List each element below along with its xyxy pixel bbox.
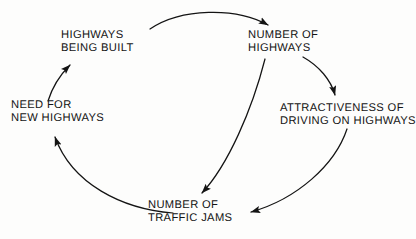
causal-loop-diagram: HIGHWAYS BEING BUILT NUMBER OF HIGHWAYS … <box>0 0 416 239</box>
node-attractiveness-of-driving-on-highways: ATTRACTIVENESS OF DRIVING ON HIGHWAYS <box>280 102 416 127</box>
node-highways-being-built: HIGHWAYS BEING BUILT <box>61 29 134 54</box>
arrow-highways-being-built-to-number-of-highways <box>150 12 268 29</box>
node-number-of-highways: NUMBER OF HIGHWAYS <box>248 29 318 54</box>
node-number-of-highways-line2: HIGHWAYS <box>248 42 318 55</box>
node-number-of-highways-line1: NUMBER OF <box>248 29 318 42</box>
node-attractiveness-line2: DRIVING ON HIGHWAYS <box>280 115 416 128</box>
arrow-attractiveness-to-traffic-jams <box>251 129 347 212</box>
node-traffic-jams-line2: TRAFFIC JAMS <box>148 212 232 225</box>
arrow-need-for-new-highways-to-highways-being-built <box>48 65 70 101</box>
node-traffic-jams-line1: NUMBER OF <box>148 199 232 212</box>
node-highways-being-built-line1: HIGHWAYS <box>61 29 134 42</box>
arrow-number-of-highways-to-traffic-jams <box>202 59 265 193</box>
node-number-of-traffic-jams: NUMBER OF TRAFFIC JAMS <box>148 199 232 224</box>
node-need-for-new-highways-line1: NEED FOR <box>11 99 104 112</box>
arrow-number-of-highways-to-attractiveness <box>303 57 335 95</box>
node-need-for-new-highways-line2: NEW HIGHWAYS <box>11 112 104 125</box>
node-attractiveness-line1: ATTRACTIVENESS OF <box>280 102 416 115</box>
node-need-for-new-highways: NEED FOR NEW HIGHWAYS <box>11 99 104 124</box>
node-highways-being-built-line2: BEING BUILT <box>61 42 134 55</box>
